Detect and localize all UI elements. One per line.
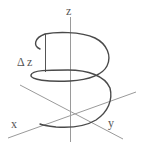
delta-z-label: Δ z bbox=[17, 56, 32, 68]
y-axis-line bbox=[8, 92, 136, 138]
x-axis-label: x bbox=[11, 118, 17, 130]
z-axis-label: z bbox=[66, 5, 71, 17]
diagram-drawing bbox=[0, 0, 141, 148]
x-axis-line bbox=[20, 85, 123, 139]
helix-diagram: z Δ z x y bbox=[0, 0, 141, 148]
y-axis-label: y bbox=[108, 117, 114, 129]
